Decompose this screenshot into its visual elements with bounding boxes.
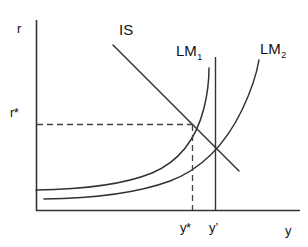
lm1-curve <box>36 68 209 190</box>
lm2-label-base: LM <box>260 40 281 57</box>
lm1-curve-label: LM1 <box>176 43 202 62</box>
r-star-tick-label: r* <box>10 106 18 119</box>
lm1-label-base: LM <box>176 42 197 59</box>
lm2-curve-label: LM2 <box>260 41 286 60</box>
is-lm-diagram: r y IS LM1 LM2 r* y* y’ <box>0 0 308 247</box>
y-star-tick-label: y* <box>180 221 191 234</box>
lm1-label-subscript: 1 <box>197 52 203 62</box>
y-prime-tick-label: y’ <box>209 221 218 234</box>
y-axis-label: r <box>17 22 21 35</box>
is-curve-label: IS <box>119 22 133 37</box>
lm2-curve <box>44 60 259 199</box>
is-curve <box>113 45 239 171</box>
x-axis-label: y <box>285 224 292 237</box>
chart-canvas <box>0 0 308 247</box>
lm2-label-subscript: 2 <box>281 50 287 60</box>
